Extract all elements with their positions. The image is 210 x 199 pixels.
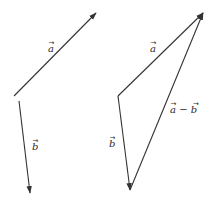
vector-accent-icon: →: [110, 134, 116, 142]
vector-diagram: a→b→ a→b→a − b→→: [0, 0, 210, 199]
vector-accent-icon: →: [171, 100, 177, 108]
vector-accent-icon: →: [193, 100, 199, 108]
left-panel: a→b→: [14, 13, 96, 193]
vector-b-arrow: [118, 96, 130, 190]
vector-accent-icon: →: [49, 39, 55, 47]
vector-a: a→: [118, 13, 203, 96]
vector-a: a→: [14, 13, 96, 96]
vector-b: b→: [19, 101, 39, 193]
vector-a-minus-b: a − b→→: [130, 13, 203, 190]
vector-a-arrow: [118, 13, 203, 96]
vector-b: b→: [109, 96, 130, 190]
vector-accent-icon: →: [33, 137, 39, 145]
vector-b-arrow: [19, 101, 30, 193]
vector-a-arrow: [14, 13, 96, 96]
right-panel: a→b→a − b→→: [109, 13, 203, 190]
vector-accent-icon: →: [151, 39, 157, 47]
